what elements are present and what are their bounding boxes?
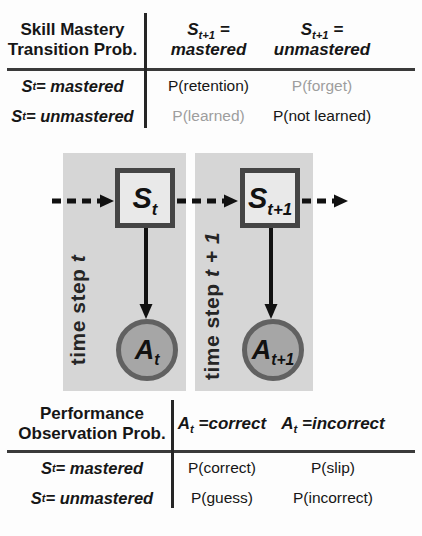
incoming-arrow-head-icon (100, 195, 114, 208)
emission-arrow-t1-head-icon (265, 304, 278, 319)
a-symbol: A (178, 414, 190, 433)
a-symbol: A (135, 335, 155, 365)
cell-p-forget: P(forget) (272, 71, 372, 101)
s-symbol: S (133, 182, 152, 214)
cell-p-retention: P(retention) (145, 71, 272, 101)
col-header-correct-symbol: At =correct (178, 414, 266, 434)
transition-table-title: Skill Mastery Transition Prob. (0, 12, 145, 68)
obs-node-at1-label: At+1 (252, 337, 295, 364)
equals-sign: = (194, 414, 209, 433)
cell-p-learned: P(learned) (145, 101, 272, 131)
a-symbol: A (281, 414, 293, 433)
col-header-next-mastered-value: mastered (171, 40, 247, 60)
bkt-figure: Skill Mastery Transition Prob. St+1 = ma… (0, 0, 422, 536)
hmm-diagram: St St+1 At At+1 time step t time step t … (0, 140, 422, 396)
transition-arrow-head-icon (224, 195, 238, 208)
obs-node-at-label: At (135, 337, 160, 364)
performance-observation-table: Performance Observation Prob. At =correc… (0, 397, 422, 513)
a-symbol: A (252, 335, 272, 365)
time-step-index: t + 1 (200, 232, 223, 277)
obs-node-at: At (116, 319, 178, 381)
observation-row-unmastered-label: St= unmastered (0, 483, 172, 513)
equals-sign: = (215, 20, 230, 39)
state-node-st-label: St (133, 184, 158, 213)
observation-title-line2: Observation Prob. (18, 424, 165, 444)
col-header-incorrect: At =incorrect (272, 397, 394, 450)
a-subscript: t (154, 351, 159, 368)
observation-table-title: Performance Observation Prob. (0, 397, 172, 450)
a-subscript: t+1 (271, 351, 294, 368)
s-symbol: S (187, 20, 198, 39)
row-state: = unmastered (45, 489, 153, 508)
s-subscript: t (152, 199, 158, 218)
observation-title-line1: Performance (40, 404, 144, 424)
cell-p-incorrect: P(incorrect) (272, 483, 394, 513)
transition-title-line1: Skill Mastery (21, 20, 125, 40)
time-step-t-label: time step t (65, 240, 91, 380)
transition-row-unmastered: St= unmastered P(learned) P(not learned) (0, 101, 422, 131)
obs-node-at1: At+1 (242, 319, 304, 381)
s-symbol: S (21, 77, 32, 96)
col-header-incorrect-value: incorrect (312, 414, 385, 433)
observation-row-mastered-label: St= mastered (0, 453, 172, 483)
observation-table-header-row: Performance Observation Prob. At =correc… (0, 397, 422, 450)
state-node-st1: St+1 (240, 168, 300, 228)
transition-title-line2: Transition Prob. (8, 40, 137, 60)
transition-row-unmastered-label: St= unmastered (0, 101, 145, 131)
equals-sign: = (329, 20, 344, 39)
cell-p-not-learned: P(not learned) (272, 101, 372, 131)
row-state: = unmastered (26, 107, 134, 126)
col-header-correct-value: correct (209, 414, 267, 433)
skill-mastery-transition-table: Skill Mastery Transition Prob. St+1 = ma… (0, 12, 422, 131)
col-header-correct: At =correct (172, 397, 272, 450)
col-header-next-unmastered-symbol: St+1 = (301, 20, 344, 40)
state-node-st: St (115, 168, 175, 228)
outgoing-arrow-head-icon (334, 195, 348, 208)
cell-p-guess: P(guess) (172, 483, 272, 513)
observation-table-column-divider (171, 400, 174, 508)
observation-row-unmastered: St= unmastered P(guess) P(incorrect) (0, 483, 422, 513)
col-header-next-mastered: St+1 = mastered (145, 12, 272, 68)
col-header-next-unmastered-value: unmastered (274, 40, 370, 60)
transition-table-column-divider (144, 13, 147, 128)
col-header-incorrect-symbol: At =incorrect (281, 414, 384, 434)
transition-row-mastered: St= mastered P(retention) P(forget) (0, 71, 422, 101)
transition-row-mastered-label: St= mastered (0, 71, 145, 101)
s-symbol: S (31, 489, 42, 508)
s-symbol: S (301, 20, 312, 39)
s-symbol: S (11, 107, 22, 126)
time-step-prefix: time step (66, 262, 89, 365)
col-header-next-mastered-symbol: St+1 = (187, 20, 230, 40)
s-symbol: S (41, 459, 52, 478)
time-step-index: t (66, 255, 89, 263)
row-state: = mastered (36, 77, 124, 96)
emission-arrow-t-head-icon (140, 304, 153, 319)
equals-sign: = (297, 414, 312, 433)
observation-row-mastered: St= mastered P(correct) P(slip) (0, 453, 422, 483)
s-symbol: S (248, 182, 267, 214)
cell-p-slip: P(slip) (272, 453, 394, 483)
col-header-next-unmastered: St+1 = unmastered (272, 12, 372, 68)
transition-table-header-row: Skill Mastery Transition Prob. St+1 = ma… (0, 12, 422, 68)
time-step-t1-label: time step t + 1 (199, 231, 225, 381)
cell-p-correct: P(correct) (172, 453, 272, 483)
time-step-prefix: time step (200, 277, 223, 380)
state-node-st1-label: St+1 (248, 184, 292, 213)
row-state: = mastered (56, 459, 144, 478)
s-subscript: t+1 (267, 199, 292, 218)
